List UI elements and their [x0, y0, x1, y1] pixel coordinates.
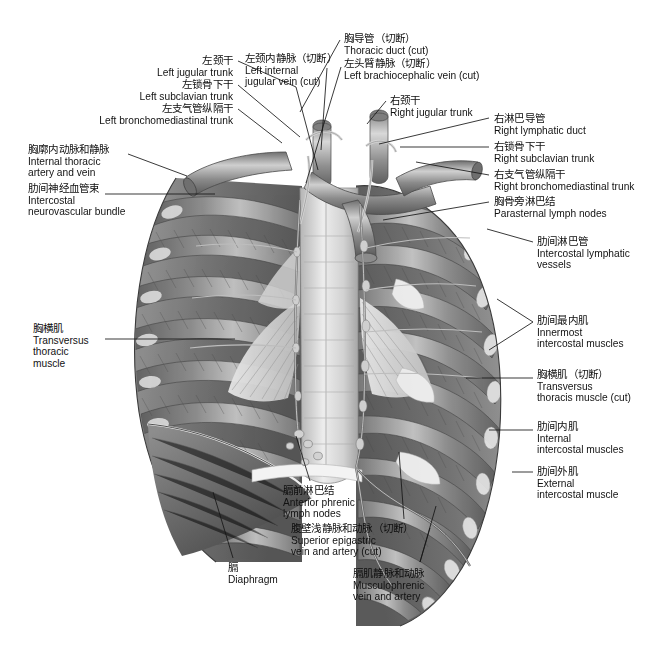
label-right-lymphatic-duct: 右淋巴导管Right lymphatic duct: [494, 113, 586, 136]
anatomical-figure: 左颈干Left jugular trunk左锁骨下干Left subclavia…: [0, 0, 669, 667]
label-cn-right-subclavian-trunk: 右锁骨下干: [494, 141, 594, 153]
label-transversus-thoracis-muscle-cut: 胸横肌（切断）Transversus thoracis muscle (cut): [537, 369, 631, 404]
label-transversus-thoracis-muscle: 胸横肌Transversus thoracic muscle: [33, 323, 89, 369]
label-left-subclavian-trunk: 左锁骨下干Left subclavian trunk: [140, 79, 233, 102]
label-en-right-bronchomediastinal-trunk: Right bronchomediastinal trunk: [494, 181, 634, 193]
label-left-jugular-trunk: 左颈干Left jugular trunk: [157, 55, 233, 78]
label-en-superior-epigastric-vein-and-artery-cut: Superior epigastric vein and artery (cut…: [291, 535, 413, 558]
label-en-left-internal-jugular-vein-cut: Left internal jugular vein (cut): [245, 65, 337, 88]
leader-intercostal-lymphatic-vessels: [487, 229, 533, 242]
label-en-left-brachiocephalic-vein-cut: Left brachiocephalic vein (cut): [344, 70, 479, 82]
label-right-subclavian-trunk: 右锁骨下干Right subclavian trunk: [494, 141, 594, 164]
label-en-innermost-intercostal-muscles: Innermost intercostal muscles: [537, 327, 624, 350]
label-left-bronchomediastinal-trunk: 左支气管纵隔干Left bronchomediastinal trunk: [99, 103, 233, 126]
label-en-right-jugular-trunk: Right jugular trunk: [390, 107, 473, 119]
label-cn-innermost-intercostal-muscles: 肋间最内肌: [537, 315, 624, 327]
label-right-jugular-trunk: 右颈干Right jugular trunk: [390, 95, 473, 118]
leader-internal-thoracic-artery-and-vein: [128, 154, 187, 176]
label-en-transversus-thoracis-muscle-cut: Transversus thoracis muscle (cut): [537, 381, 631, 404]
label-cn-parasternal-lymph-nodes: 胸骨旁淋巴结: [494, 196, 607, 208]
label-en-anterior-phrenic-lymph-nodes: Anterior phrenic lymph nodes: [283, 497, 355, 520]
label-en-intercostal-neurovascular-bundle: Intercostal neurovascular bundle: [28, 195, 125, 218]
label-en-internal-intercostal-muscles: Internal intercostal muscles: [537, 433, 624, 456]
label-en-left-jugular-trunk: Left jugular trunk: [157, 67, 233, 79]
label-en-right-subclavian-trunk: Right subclavian trunk: [494, 153, 594, 165]
label-external-intercostal-muscle: 肋间外肌External intercostal muscle: [537, 466, 619, 501]
label-en-intercostal-lymphatic-vessels: Intercostal lymphatic vessels: [537, 248, 630, 271]
label-cn-left-subclavian-trunk: 左锁骨下干: [140, 79, 233, 91]
label-innermost-intercostal-muscles: 肋间最内肌Innermost intercostal muscles: [537, 315, 624, 350]
leader-left-subclavian-trunk: [238, 85, 300, 137]
label-cn-right-lymphatic-duct: 右淋巴导管: [494, 113, 586, 125]
label-left-internal-jugular-vein-cut: 左颈内静脉（切断）Left internal jugular vein (cut…: [245, 53, 337, 88]
label-cn-internal-thoracic-artery-and-vein: 胸廓内动脉和静脉: [28, 144, 110, 156]
label-cn-right-bronchomediastinal-trunk: 右支气管纵隔干: [494, 169, 634, 181]
label-en-external-intercostal-muscle: External intercostal muscle: [537, 478, 619, 501]
label-intercostal-neurovascular-bundle: 肋间神经血管束Intercostal neurovascular bundle: [28, 183, 125, 218]
label-cn-transversus-thoracis-muscle: 胸横肌: [33, 323, 89, 335]
label-cn-anterior-phrenic-lymph-nodes: 膈前淋巴结: [283, 485, 355, 497]
label-parasternal-lymph-nodes: 胸骨旁淋巴结Parasternal lymph nodes: [494, 196, 607, 219]
label-en-left-subclavian-trunk: Left subclavian trunk: [140, 91, 233, 103]
label-en-musculophrenic-vein-and-artery: Musculophrenic vein and artery: [353, 580, 424, 603]
label-cn-diaphragm: 膈: [228, 562, 278, 574]
label-cn-left-brachiocephalic-vein-cut: 左头臂静脉（切断）: [344, 58, 479, 70]
leader-innermost-intercostal-muscles-a: [497, 299, 533, 322]
label-en-left-bronchomediastinal-trunk: Left bronchomediastinal trunk: [99, 115, 233, 127]
label-en-internal-thoracic-artery-and-vein: Internal thoracic artery and vein: [28, 156, 110, 179]
leader-left-bronchomediastinal-trunk: [238, 109, 282, 143]
label-musculophrenic-vein-and-artery: 膈肌静脉和动脉Musculophrenic vein and artery: [353, 568, 424, 603]
label-cn-external-intercostal-muscle: 肋间外肌: [537, 466, 619, 478]
label-cn-left-internal-jugular-vein-cut: 左颈内静脉（切断）: [245, 53, 337, 65]
label-en-thoracic-duct-cut: Thoracic duct (cut): [344, 45, 428, 57]
label-intercostal-lymphatic-vessels: 肋间淋巴管Intercostal lymphatic vessels: [537, 236, 630, 271]
label-right-bronchomediastinal-trunk: 右支气管纵隔干Right bronchomediastinal trunk: [494, 169, 634, 192]
label-en-transversus-thoracis-muscle: Transversus thoracic muscle: [33, 335, 89, 370]
label-diaphragm: 膈Diaphragm: [228, 562, 278, 585]
leader-right-lymphatic-duct: [379, 118, 489, 144]
label-anterior-phrenic-lymph-nodes: 膈前淋巴结Anterior phrenic lymph nodes: [283, 485, 355, 520]
label-en-parasternal-lymph-nodes: Parasternal lymph nodes: [494, 208, 607, 220]
label-cn-transversus-thoracis-muscle-cut: 胸横肌（切断）: [537, 369, 631, 381]
label-en-diaphragm: Diaphragm: [228, 574, 278, 586]
label-internal-thoracic-artery-and-vein: 胸廓内动脉和静脉Internal thoracic artery and vei…: [28, 144, 110, 179]
label-en-right-lymphatic-duct: Right lymphatic duct: [494, 125, 586, 137]
label-cn-musculophrenic-vein-and-artery: 膈肌静脉和动脉: [353, 568, 424, 580]
label-superior-epigastric-vein-and-artery-cut: 腹壁浅静脉和动脉（切断）Superior epigastric vein and…: [291, 523, 413, 558]
label-cn-superior-epigastric-vein-and-artery-cut: 腹壁浅静脉和动脉（切断）: [291, 523, 413, 535]
label-left-brachiocephalic-vein-cut: 左头臂静脉（切断）Left brachiocephalic vein (cut): [344, 58, 479, 81]
label-internal-intercostal-muscles: 肋间内肌Internal intercostal muscles: [537, 421, 624, 456]
label-cn-internal-intercostal-muscles: 肋间内肌: [537, 421, 624, 433]
label-cn-left-bronchomediastinal-trunk: 左支气管纵隔干: [99, 103, 233, 115]
label-cn-left-jugular-trunk: 左颈干: [157, 55, 233, 67]
label-cn-intercostal-neurovascular-bundle: 肋间神经血管束: [28, 183, 125, 195]
label-cn-intercostal-lymphatic-vessels: 肋间淋巴管: [537, 236, 630, 248]
label-cn-right-jugular-trunk: 右颈干: [390, 95, 473, 107]
label-cn-thoracic-duct-cut: 胸导管（切断）: [344, 33, 428, 45]
label-thoracic-duct-cut: 胸导管（切断）Thoracic duct (cut): [344, 33, 428, 56]
